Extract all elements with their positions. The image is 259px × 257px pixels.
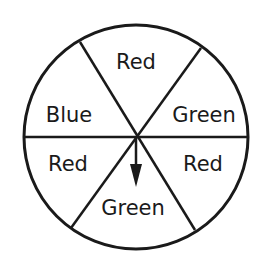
spinner-diagram: Red Green Red Green Red Blue	[0, 0, 259, 257]
sector-label-upper-right: Green	[172, 103, 236, 127]
sector-label-lower-right: Red	[183, 152, 223, 176]
sector-label-upper-left: Blue	[46, 103, 92, 127]
sector-label-lower-left: Red	[48, 152, 88, 176]
sector-label-top: Red	[116, 50, 156, 74]
sector-label-bottom: Green	[101, 196, 165, 220]
